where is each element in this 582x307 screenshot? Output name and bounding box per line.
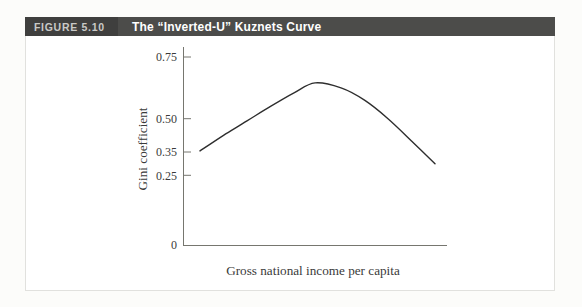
page: FIGURE 5.10 The “Inverted-U” Kuznets Cur… (0, 0, 582, 307)
figure-title: The “Inverted-U” Kuznets Curve (118, 17, 555, 36)
y-tick-label: 0.75 (156, 50, 177, 64)
y-tick-label: 0.25 (156, 169, 177, 183)
y-tick-label: 0.35 (156, 145, 177, 159)
figure-number-box: FIGURE 5.10 (25, 17, 118, 36)
chart-area: 00.250.350.500.75 Gini coefficient Gross… (25, 36, 555, 291)
kuznets-curve (200, 83, 435, 164)
y-tick-label: 0.50 (156, 112, 177, 126)
y-tick-label: 0 (171, 238, 177, 252)
y-axis-label: Gini coefficient (135, 107, 150, 190)
y-axis-ticks: 00.250.350.500.75 (156, 50, 191, 252)
figure-panel: FIGURE 5.10 The “Inverted-U” Kuznets Cur… (25, 17, 555, 291)
figure-header: FIGURE 5.10 The “Inverted-U” Kuznets Cur… (25, 17, 555, 36)
figure-number-label: FIGURE 5.10 (34, 21, 105, 33)
kuznets-chart: 00.250.350.500.75 Gini coefficient Gross… (26, 36, 554, 289)
x-axis-label: Gross national income per capita (226, 263, 400, 278)
